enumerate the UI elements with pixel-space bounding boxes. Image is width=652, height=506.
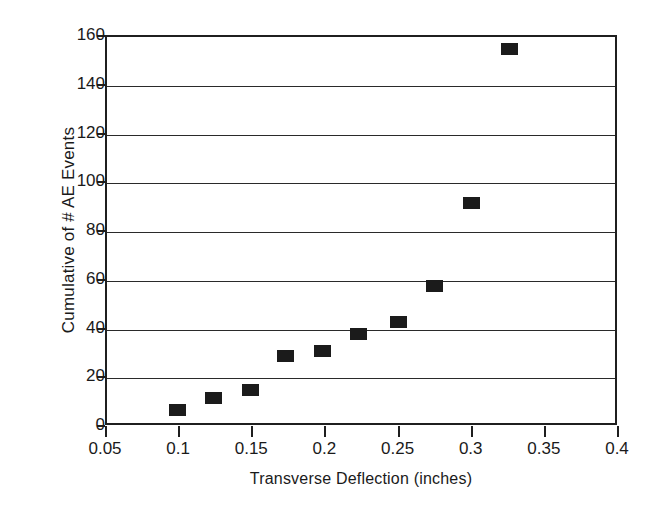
x-tick-label: 0.15 [216, 440, 286, 457]
x-axis-title: Transverse Deflection (inches) [105, 470, 617, 488]
plot-area [105, 35, 617, 425]
data-point [390, 316, 407, 328]
data-point [501, 43, 518, 55]
data-point [426, 280, 443, 292]
data-point [277, 350, 294, 362]
x-tick-label: 0.25 [363, 440, 433, 457]
data-point [169, 404, 186, 416]
data-point [205, 392, 222, 404]
data-point [463, 197, 480, 209]
x-tick-label: 0.2 [289, 440, 359, 457]
x-tick-mark [471, 426, 473, 437]
x-tick-mark [398, 426, 400, 437]
x-tick-label: 0.4 [582, 440, 652, 457]
x-tick-mark [251, 426, 253, 437]
x-tick-label: 0.3 [436, 440, 506, 457]
x-tick-mark [105, 426, 107, 437]
chart-figure: Cumulative of # AE Events 02040608010012… [0, 0, 652, 506]
gridline-horizontal [107, 378, 615, 379]
gridline-horizontal [107, 232, 615, 233]
gridline-horizontal [107, 86, 615, 87]
data-point [314, 345, 331, 357]
gridline-horizontal [107, 135, 615, 136]
x-tick-label: 0.1 [143, 440, 213, 457]
x-tick-mark [324, 426, 326, 437]
x-tick-label: 0.05 [70, 440, 140, 457]
x-tick-mark [544, 426, 546, 437]
gridline-horizontal [107, 183, 615, 184]
gridline-horizontal [107, 281, 615, 282]
data-point [242, 384, 259, 396]
data-point [350, 328, 367, 340]
x-tick-mark [178, 426, 180, 437]
x-tick-mark [617, 426, 619, 437]
x-tick-label: 0.35 [509, 440, 579, 457]
